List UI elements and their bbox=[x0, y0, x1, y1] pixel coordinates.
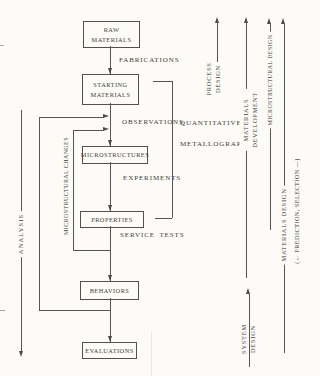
arrow-down-icon bbox=[108, 275, 112, 281]
arrow-down-icon bbox=[108, 68, 112, 74]
edge-label-fabrications: FABRICATIONS bbox=[119, 56, 179, 64]
arrow-down-icon bbox=[108, 140, 112, 146]
box-properties: PROPERTIES bbox=[80, 211, 144, 228]
feedback-inner-top-line bbox=[73, 130, 103, 131]
arrow-down-icon bbox=[108, 205, 112, 211]
process-design-line bbox=[217, 22, 218, 62]
arrow-down-icon bbox=[108, 336, 112, 342]
arrow-right-icon bbox=[103, 127, 109, 131]
arrow-down-icon bbox=[19, 351, 23, 357]
arrow-right-icon bbox=[103, 114, 109, 118]
feedback-outer-vertical-line bbox=[39, 117, 40, 310]
box-microstructures: MICROSTRUCTURES bbox=[82, 146, 148, 164]
main-flow-line-4 bbox=[110, 226, 111, 281]
scan-artifact bbox=[151, 332, 152, 376]
main-flow-line-3 bbox=[110, 162, 111, 211]
materials-design-flow-diagram: RAW MATERIALS STARTING MATERIALS MICROST… bbox=[0, 0, 320, 376]
box-evaluations: EVALUATIONS bbox=[82, 342, 137, 359]
edge-label-observations: OBSERVATIONS bbox=[122, 118, 184, 126]
feedback-outer-bottom-line bbox=[39, 310, 111, 311]
feedback-inner-bottom-line bbox=[73, 250, 111, 251]
edge-label-service-tests: SERVICE TESTS bbox=[120, 231, 185, 239]
quant-bracket-vertical-line bbox=[172, 81, 173, 218]
box-raw-materials: RAW MATERIALS bbox=[83, 21, 140, 48]
label-quantitative: QUANTITATIVE bbox=[180, 119, 242, 127]
feedback-outer-top-line bbox=[39, 117, 103, 118]
quant-bracket-bottom-line bbox=[155, 218, 172, 219]
feedback-inner-vertical-line bbox=[73, 130, 74, 250]
scan-artifact bbox=[0, 310, 5, 311]
scan-artifact bbox=[0, 45, 4, 46]
box-starting-materials: STARTING MATERIALS bbox=[82, 74, 139, 105]
quant-bracket-top-line bbox=[153, 81, 172, 82]
